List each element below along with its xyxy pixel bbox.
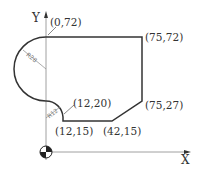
point-0-72-leader — [48, 27, 56, 35]
point-label-12-15: (12,15) — [55, 125, 93, 137]
point-label-42-15: (42,15) — [103, 125, 141, 137]
point-label-75-72: (75,72) — [145, 31, 183, 43]
workpiece-zero-icon — [40, 146, 52, 158]
point-label-0-72: (0,72) — [50, 16, 82, 28]
point-label-12-20: (12,20) — [73, 97, 111, 109]
x-axis-label: X — [181, 153, 190, 167]
r12-label: R12 — [46, 107, 60, 120]
y-axis-arrow-icon — [44, 11, 48, 18]
part-drawing: R28 R12 Y X (0,72) (75,72) (75,27) (42,1… — [0, 0, 201, 180]
point-label-75-27: (75,27) — [145, 99, 183, 111]
y-axis-label: Y — [31, 11, 41, 25]
